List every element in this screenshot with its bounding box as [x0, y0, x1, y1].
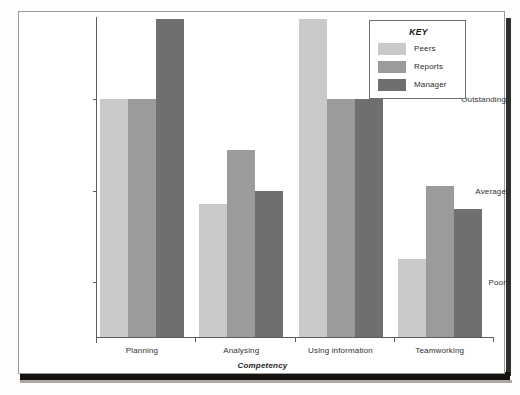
legend-title: KEY [370, 27, 467, 37]
bar-manager-planning [156, 19, 184, 337]
x-axis-tick-mark [295, 337, 296, 342]
bar-peers-planning [100, 99, 128, 337]
legend-swatch-icon [378, 61, 406, 73]
legend-label: Manager [414, 80, 447, 89]
legend-label: Peers [414, 44, 436, 53]
chart-legend: KEY PeersReportsManager [369, 20, 466, 99]
page-edge-shadow-right [506, 18, 511, 376]
y-axis-tick-mark [93, 99, 97, 100]
x-axis-tick-mark [195, 337, 196, 342]
bar-peers-teamworking [398, 259, 426, 337]
x-axis-tick-mark [394, 337, 395, 342]
x-axis-category-label: Teamworking [415, 346, 464, 355]
bar-manager-teamworking [454, 209, 482, 337]
legend-entry-reports: Reports [378, 61, 464, 74]
x-axis-category-label: Planning [126, 346, 158, 355]
bar-peers-using-information [299, 19, 327, 337]
y-axis-line [96, 17, 97, 343]
bar-manager-using-information [355, 99, 383, 337]
bar-chart-plot-area: PoorAverageOutstanding PlanningAnalysing… [19, 12, 506, 375]
y-axis-tick-mark [93, 282, 97, 283]
bar-manager-analysing [255, 191, 283, 337]
bar-peers-analysing [199, 204, 227, 337]
legend-swatch-icon [378, 79, 406, 91]
x-axis-tick-mark-end [493, 337, 494, 342]
x-axis-category-label: Using information [308, 346, 373, 355]
scanned-page-background: PoorAverageOutstanding PlanningAnalysing… [0, 0, 520, 395]
legend-entry-peers: Peers [378, 43, 464, 56]
bar-reports-analysing [227, 150, 255, 337]
chart-frame: PoorAverageOutstanding PlanningAnalysing… [18, 11, 505, 374]
legend-label: Reports [414, 62, 443, 71]
bar-reports-teamworking [426, 186, 454, 337]
x-axis-title: Competency [19, 361, 506, 370]
y-axis-tick-mark [93, 191, 97, 192]
legend-entry-manager: Manager [378, 79, 464, 92]
bar-reports-planning [128, 99, 156, 337]
x-axis-tick-mark [96, 337, 97, 342]
bar-reports-using-information [327, 99, 355, 337]
legend-swatch-icon [378, 43, 406, 55]
page-edge-shadow-bottom-fade [20, 380, 512, 383]
x-axis-category-label: Analysing [223, 346, 259, 355]
